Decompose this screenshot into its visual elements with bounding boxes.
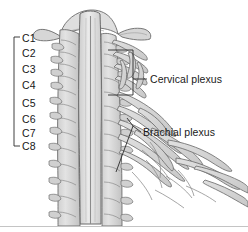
segment-label-c3: C3 (22, 64, 36, 75)
segment-bracket-line (14, 37, 20, 146)
vertebrae-left (49, 30, 80, 226)
spinal-cord-illustration (0, 0, 248, 232)
anatomy-figure: C1 C2 C3 C4 C5 C6 C7 C8 Cervical plexus … (0, 0, 248, 232)
segment-label-c2: C2 (22, 48, 36, 59)
brachial-plexus-nerves (117, 92, 248, 207)
segment-label-c5: C5 (22, 98, 36, 109)
segment-label-c1: C1 (22, 33, 36, 44)
segment-label-c4: C4 (22, 80, 36, 91)
spinal-cord (79, 11, 102, 224)
segment-label-c6: C6 (22, 114, 36, 125)
segment-label-c7: C7 (22, 128, 36, 139)
cervical-plexus-label: Cervical plexus (150, 74, 222, 85)
segment-label-c8: C8 (22, 141, 36, 152)
brachial-plexus-label: Brachial plexus (143, 127, 215, 138)
